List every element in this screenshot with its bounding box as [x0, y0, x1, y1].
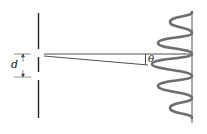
slit-separation-label: d: [11, 59, 18, 70]
interference-pattern: [152, 12, 192, 118]
diagram-canvas: [0, 0, 207, 134]
angle-label: θ: [148, 54, 154, 64]
